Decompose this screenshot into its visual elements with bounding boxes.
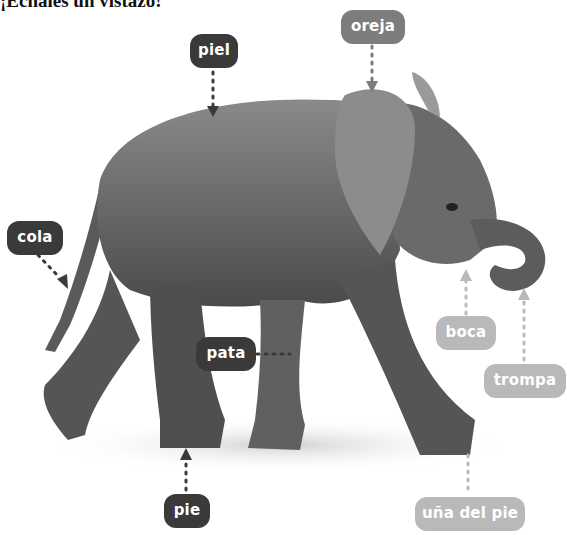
label-piel: piel: [190, 34, 238, 68]
label-pata: pata: [196, 337, 256, 371]
label-pie: pie: [164, 494, 210, 528]
label-boca: boca: [436, 316, 496, 350]
labeled-diagram: ¡Échales un vistazo!: [0, 0, 567, 535]
label-oreja: oreja: [341, 10, 405, 44]
label-cola: cola: [7, 221, 63, 255]
elephant-illustration: [0, 0, 567, 535]
label-trompa: trompa: [484, 364, 566, 398]
label-una-del-pie: uña del pie: [415, 497, 525, 531]
